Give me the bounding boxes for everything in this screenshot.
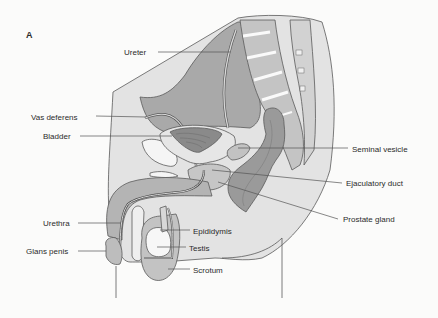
svg-text:Bladder: Bladder	[43, 132, 71, 141]
label-glans-penis: Glans penis	[26, 247, 106, 256]
svg-text:Vas deferens: Vas deferens	[31, 113, 78, 122]
svg-text:Scrotum: Scrotum	[193, 266, 223, 275]
svg-text:Ureter: Ureter	[124, 48, 147, 57]
label-scrotum: Scrotum	[168, 266, 223, 275]
svg-text:Epididymis: Epididymis	[193, 227, 232, 236]
svg-text:Urethra: Urethra	[43, 219, 70, 228]
svg-text:Seminal vesicle: Seminal vesicle	[352, 145, 408, 154]
svg-text:Glans penis: Glans penis	[26, 247, 68, 256]
panel-label: A	[26, 30, 33, 40]
svg-text:Testis: Testis	[189, 244, 209, 253]
testis-shape	[146, 228, 171, 257]
svg-text:Prostate gland: Prostate gland	[343, 215, 395, 224]
svg-text:Ejaculatory duct: Ejaculatory duct	[346, 179, 404, 188]
anatomy-diagram: A Ureter Vas deferens Bladder Seminal ve…	[0, 0, 438, 318]
